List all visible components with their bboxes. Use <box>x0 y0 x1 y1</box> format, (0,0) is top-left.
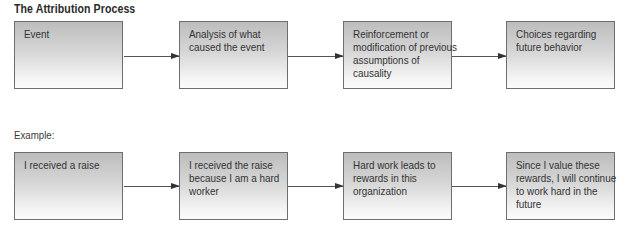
step-label: Event <box>24 28 130 41</box>
arrow-icon <box>452 56 506 57</box>
example-step-future: Since I value these rewards, I will cont… <box>506 152 615 220</box>
process-step-choices: Choices regarding future behavior <box>506 21 615 89</box>
example-label: Example: <box>14 129 54 141</box>
step-label: Since I value these rewards, I will cont… <box>516 159 622 211</box>
process-step-analysis: Analysis of what caused the event <box>179 21 288 89</box>
process-step-event: Event <box>14 21 123 89</box>
diagram-title: The Attribution Process <box>14 2 135 16</box>
arrow-icon <box>288 56 343 57</box>
step-label: I received a raise <box>24 159 130 172</box>
example-step-belief: Hard work leads to rewards in this organ… <box>343 152 452 220</box>
step-label: Analysis of what caused the event <box>189 28 295 54</box>
arrow-icon <box>124 186 179 187</box>
arrow-icon <box>288 186 343 187</box>
arrow-icon <box>124 56 179 57</box>
example-step-raise: I received a raise <box>14 152 123 220</box>
step-label: Hard work leads to rewards in this organ… <box>353 159 459 198</box>
arrow-icon <box>452 186 506 187</box>
step-label: I received the raise because I am a hard… <box>189 159 295 198</box>
step-label: Reinforcement or modification of previou… <box>353 28 459 80</box>
example-step-reason: I received the raise because I am a hard… <box>179 152 288 220</box>
step-label: Choices regarding future behavior <box>516 28 622 54</box>
process-step-reinforcement: Reinforcement or modification of previou… <box>343 21 452 89</box>
